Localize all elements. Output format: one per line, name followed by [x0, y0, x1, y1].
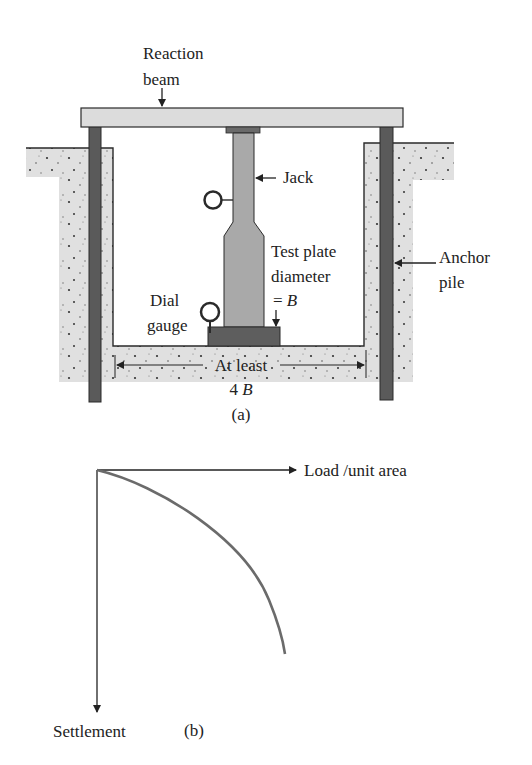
anchor-pile-left	[89, 126, 101, 402]
label-gauge: gauge	[147, 316, 188, 335]
y-axis-label: Settlement	[53, 722, 126, 741]
jack	[224, 133, 264, 327]
label-jack: Jack	[283, 168, 314, 187]
label-pile: pile	[439, 273, 465, 292]
test-plate	[208, 327, 280, 346]
label-reaction: Reaction	[143, 44, 204, 63]
label-test-plate: Test plate	[271, 242, 336, 261]
x-axis-label: Load /unit area	[304, 461, 407, 480]
label-beam: beam	[143, 70, 180, 89]
plate-load-test-figure: Reaction beam Jack Test plate diameter =…	[0, 0, 532, 765]
label-equals-b: = B	[273, 291, 298, 310]
caption-b: (b)	[184, 721, 204, 740]
figure-a: Reaction beam Jack Test plate diameter =…	[26, 44, 490, 424]
dial-gauge-icon	[201, 303, 219, 321]
load-settlement-curve	[97, 470, 285, 654]
jack-cap	[226, 127, 260, 133]
reaction-beam	[81, 108, 403, 127]
jack-ring-icon	[205, 192, 222, 209]
label-4b: 4 B	[229, 380, 253, 399]
caption-a: (a)	[232, 405, 251, 424]
label-dial: Dial	[150, 291, 180, 310]
anchor-pile-right	[380, 126, 393, 400]
label-diameter: diameter	[271, 267, 331, 286]
label-at-least: At least	[215, 356, 268, 375]
label-anchor: Anchor	[439, 248, 490, 267]
figure-b: Load /unit area Settlement (b)	[53, 461, 407, 741]
